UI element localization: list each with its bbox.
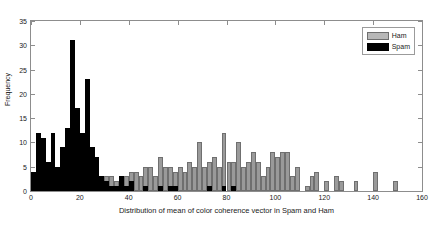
bar-spam <box>231 186 236 191</box>
x-axis-title: Distribution of mean of color coherence … <box>30 207 423 215</box>
x-tick-top <box>80 21 81 25</box>
legend-label-spam: Spam <box>392 43 410 50</box>
y-tick-label: 25 <box>19 66 27 73</box>
histogram-figure: Frequency 051015202530350204060801001201… <box>0 0 437 232</box>
x-tick-top <box>373 21 374 25</box>
y-tick <box>31 118 35 119</box>
y-tick-right <box>418 191 422 192</box>
x-tick-top <box>422 21 423 25</box>
y-tick-label: 0 <box>23 188 27 195</box>
y-tick <box>31 142 35 143</box>
y-tick-right <box>418 142 422 143</box>
bar-spam <box>207 186 212 191</box>
x-tick-top <box>178 21 179 25</box>
x-tick-label: 0 <box>29 194 33 201</box>
y-tick-label: 30 <box>19 42 27 49</box>
bar-spam <box>222 186 227 191</box>
x-tick-top <box>324 21 325 25</box>
y-tick <box>31 167 35 168</box>
y-tick <box>31 45 35 46</box>
y-tick-right <box>418 167 422 168</box>
bar-ham <box>339 181 344 191</box>
y-axis-title: Frequency <box>4 73 11 106</box>
plot-area: 05101520253035020406080100120140160 Ham … <box>30 20 423 192</box>
y-tick-label: 35 <box>19 18 27 25</box>
legend-swatch-spam <box>367 43 389 51</box>
y-tick-right <box>418 118 422 119</box>
x-tick-label: 140 <box>367 194 379 201</box>
x-tick-top <box>275 21 276 25</box>
bar-spam <box>173 186 178 191</box>
bar-ham <box>354 181 359 191</box>
y-tick-label: 5 <box>23 163 27 170</box>
x-tick-label: 20 <box>76 194 84 201</box>
bar-ham <box>324 181 329 191</box>
x-tick-label: 160 <box>416 194 428 201</box>
y-tick <box>31 191 35 192</box>
bar-ham <box>373 172 378 191</box>
bar-ham <box>295 167 300 191</box>
x-tick-label: 120 <box>318 194 330 201</box>
bar-spam <box>129 181 134 191</box>
x-tick-top <box>129 21 130 25</box>
x-tick-top <box>227 21 228 25</box>
x-tick-label: 40 <box>125 194 133 201</box>
y-tick-right <box>418 45 422 46</box>
legend-label-ham: Ham <box>392 32 407 39</box>
y-tick-label: 15 <box>19 115 27 122</box>
y-tick <box>31 70 35 71</box>
x-tick-label: 80 <box>223 194 231 201</box>
x-tick-top <box>31 21 32 25</box>
legend-item-spam: Spam <box>367 42 410 51</box>
x-tick-label: 60 <box>174 194 182 201</box>
y-tick-label: 20 <box>19 90 27 97</box>
y-tick <box>31 94 35 95</box>
legend-item-ham: Ham <box>367 31 410 40</box>
bar-spam <box>158 186 163 191</box>
y-tick-right <box>418 94 422 95</box>
x-tick <box>422 187 423 191</box>
bar-ham <box>393 181 398 191</box>
y-tick-label: 10 <box>19 139 27 146</box>
y-tick-right <box>418 70 422 71</box>
x-tick-label: 100 <box>270 194 282 201</box>
legend-swatch-ham <box>367 32 389 40</box>
bar-spam <box>143 186 148 191</box>
bar-ham <box>314 172 319 191</box>
chart-legend: Ham Spam <box>362 27 415 55</box>
